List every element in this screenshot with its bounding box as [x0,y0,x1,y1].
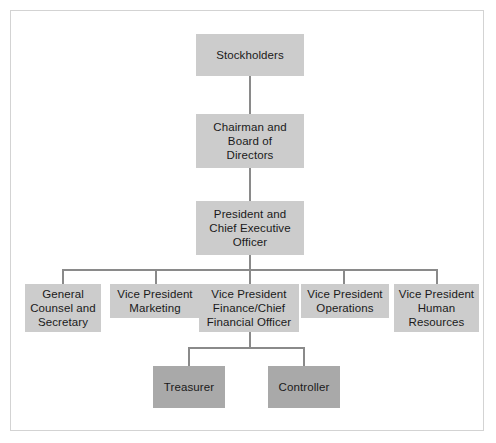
org-node-ceo[interactable]: President and Chief Executive Officer [196,201,304,255]
org-node-vp-human-resources-label: Vice President Human Resources [395,287,478,329]
org-node-general-counsel[interactable]: General Counsel and Secretary [25,284,101,332]
org-node-ceo-label: President and Chief Executive Officer [205,207,294,249]
connector-bus-to-vp-finance [249,269,251,284]
org-node-vp-human-resources[interactable]: Vice President Human Resources [394,284,479,332]
org-node-vp-marketing-label: Vice President Marketing [113,287,196,315]
connector-bus-to-vp-marketing [155,269,157,284]
org-node-controller-label: Controller [275,380,334,394]
connector-board-to-ceo [249,168,251,201]
connector-bus-to-vp-human-resources [436,269,438,284]
org-chart-canvas: Stockholders Chairman and Board of Direc… [0,0,496,443]
connector-stockholders-to-board [249,76,251,114]
org-node-stockholders-label: Stockholders [212,48,288,62]
org-node-vp-operations-label: Vice President Operations [303,287,386,315]
connector-bus-to-vp-operations [343,269,345,284]
org-node-stockholders[interactable]: Stockholders [196,34,304,76]
connector-bus-to-treasurer [188,347,190,366]
org-node-vp-marketing[interactable]: Vice President Marketing [110,284,200,318]
org-node-treasurer-label: Treasurer [160,380,218,394]
org-node-general-counsel-label: General Counsel and Secretary [26,287,100,329]
org-node-vp-operations[interactable]: Vice President Operations [301,284,389,318]
org-node-controller[interactable]: Controller [268,366,340,408]
org-node-board-of-directors-label: Chairman and Board of Directors [209,120,290,162]
connector-finance-subordinates-bus [188,347,305,349]
org-node-vp-finance-label: Vice President Finance/Chief Financial O… [203,287,296,329]
connector-bus-to-controller [303,347,305,366]
org-node-board-of-directors[interactable]: Chairman and Board of Directors [196,114,304,168]
org-node-treasurer[interactable]: Treasurer [153,366,225,408]
connector-bus-to-general-counsel [62,269,64,284]
org-node-vp-finance[interactable]: Vice President Finance/Chief Financial O… [199,284,299,332]
